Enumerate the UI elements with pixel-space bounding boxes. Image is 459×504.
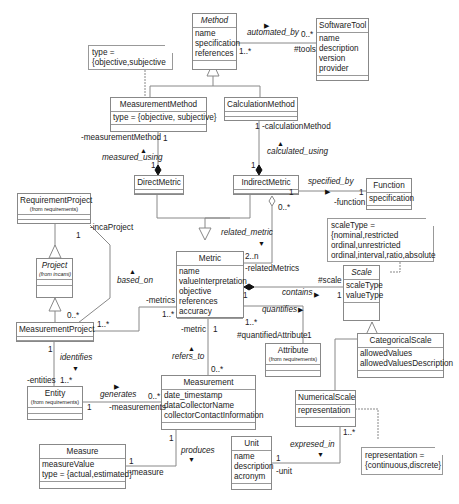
class-calculation-method[interactable]: CalculationMethod xyxy=(224,97,298,121)
generalization-metric xyxy=(157,194,230,218)
generalization-method xyxy=(150,76,213,98)
class-unit[interactable]: Unit name description acronym xyxy=(231,436,272,490)
generalization-arrow-requirementproject xyxy=(49,245,61,258)
class-attributes: name specification references xyxy=(193,28,236,61)
assoc-based-on xyxy=(78,225,110,323)
class-attributes: name description version provider xyxy=(317,33,368,76)
class-entity[interactable]: Entity (from requirements) xyxy=(27,386,83,420)
direction-arrow-icon: ▼ xyxy=(317,451,324,459)
class-attributes: name valueInterpretation objective refer… xyxy=(177,266,243,319)
class-measure[interactable]: Measure measureValue type = {actual,esti… xyxy=(39,444,126,489)
class-requirement-project[interactable]: RequirementProject (from requirements) xyxy=(17,193,91,224)
class-measurement-method[interactable]: MeasurementMethod type = {objective, sub… xyxy=(110,97,207,132)
assoc-label-expresed-in: expresed_in xyxy=(290,440,335,450)
direction-arrow-icon: ▼ xyxy=(72,365,79,373)
assoc-label-generates: generates xyxy=(100,390,136,400)
class-project[interactable]: Project (from incami) xyxy=(36,258,73,298)
class-name: Metric xyxy=(177,252,243,266)
assoc-label-refers-to: refers_to xyxy=(172,352,204,362)
direction-arrow-icon: ▶ xyxy=(298,306,303,314)
class-name: Attribute (from requirements) xyxy=(266,344,320,365)
class-attributes: measureValue type = {actual,estimated} xyxy=(40,459,125,482)
class-attributes: date_timestamp dataCollectorName collect… xyxy=(162,390,255,423)
class-method[interactable]: Method name specification references xyxy=(192,13,237,70)
class-attributes: type = {objective, subjective} xyxy=(111,112,206,125)
assoc-label-quantifies: quantifies xyxy=(262,305,297,315)
assoc-label-based-on: based_on xyxy=(117,276,153,286)
class-measurement-project[interactable]: MeasurementProject xyxy=(16,322,94,342)
class-name: Project (from incami) xyxy=(37,259,72,280)
class-attributes: scaleType valueType xyxy=(344,280,379,303)
class-name: CategoricalScale xyxy=(358,334,443,348)
class-name: Function xyxy=(367,179,411,193)
assoc-label-produces: produces xyxy=(181,446,215,456)
class-name: Measure xyxy=(40,445,125,459)
assoc-label-calculated-using: calculated_using xyxy=(267,147,328,157)
class-attributes: allowedValues allowedValuesDescription xyxy=(358,348,443,371)
direction-arrow-icon: ▼ xyxy=(188,456,195,464)
direction-arrow-icon: ▶ xyxy=(314,291,319,299)
direction-arrow-icon: ▶ xyxy=(325,188,330,196)
class-name: NumericalScale xyxy=(296,391,355,405)
class-name: Scale xyxy=(344,266,379,280)
class-attributes: representation xyxy=(296,405,355,418)
class-metric[interactable]: Metric name valueInterpretation objectiv… xyxy=(176,251,244,318)
class-numerical-scale[interactable]: NumericalScale representation xyxy=(295,390,356,427)
class-name: DirectMetric xyxy=(135,176,183,190)
assoc-label-identifies: identifies xyxy=(60,353,92,363)
note-method-type: type = {objective,subjective xyxy=(88,45,173,70)
direction-arrow-icon: ▼ xyxy=(258,240,265,248)
class-measurement[interactable]: Measurement date_timestamp dataCollector… xyxy=(161,375,256,430)
generalization-arrow-metric xyxy=(199,228,211,240)
assoc-label-automated-by: automated_by xyxy=(247,28,299,38)
class-name: MeasurementProject xyxy=(17,323,93,337)
class-software-tool[interactable]: SoftwareTool name description version pr… xyxy=(316,18,369,81)
class-name: CalculationMethod xyxy=(225,98,297,112)
note-scale-type: scaleType = {nominal,restricted ordinal,… xyxy=(327,218,434,262)
class-name: Method xyxy=(193,14,236,28)
class-name: Unit xyxy=(232,437,271,451)
class-attribute[interactable]: Attribute (from requirements) xyxy=(265,343,321,377)
class-scale[interactable]: Scale scaleType valueType xyxy=(343,265,380,321)
class-name: RequirementProject (from requirements) xyxy=(18,194,90,215)
class-name: Entity (from requirements) xyxy=(28,387,82,408)
class-attributes: specification xyxy=(367,193,411,206)
class-name: SoftwareTool xyxy=(317,19,368,33)
direction-arrow-icon: ▲ xyxy=(129,268,136,276)
assoc-label-related-metric: related_metric xyxy=(221,228,273,238)
class-direct-metric[interactable]: DirectMetric xyxy=(134,175,184,195)
note-representation: representation = {continuous,discrete} xyxy=(361,447,443,475)
generalization-arrow-project xyxy=(49,298,61,311)
class-name: Measurement xyxy=(162,376,255,390)
assoc-label-specified-by: specified_by xyxy=(308,177,354,187)
class-categorical-scale[interactable]: CategoricalScale allowedValues allowedVa… xyxy=(357,333,444,378)
class-name: MeasurementMethod xyxy=(111,98,206,112)
class-attributes: name description acronym xyxy=(232,451,271,484)
class-function[interactable]: Function specification xyxy=(366,178,412,210)
assoc-label-contains: contains xyxy=(282,288,313,298)
